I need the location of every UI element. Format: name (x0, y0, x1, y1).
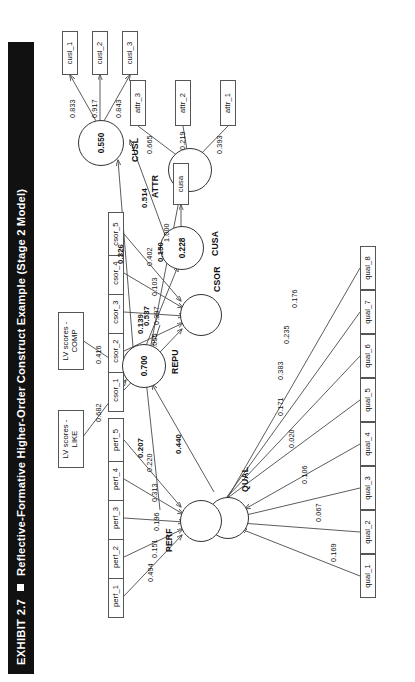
loading-cusl-1: 0.833 (68, 99, 77, 118)
construct-label-csor: CSOR (212, 266, 222, 292)
indicator-label: cusl_1 (66, 42, 75, 65)
indicator-label: qual_3 (364, 476, 373, 499)
indicator-label: perf_1 (112, 585, 121, 607)
indicator-attr-2: attr_2 (175, 80, 191, 126)
indicator-cusl-3: cusl_3 (122, 31, 138, 75)
weight-attr-3: 0.665 (145, 135, 154, 154)
weight-perf-3: 0.196 (152, 512, 161, 531)
construct-label-repu: REPU (170, 349, 180, 374)
indicator-perf-2: perf_2 (108, 535, 124, 579)
indicator-label: attr_1 (224, 93, 233, 113)
construct-label-cusl: CUSL (130, 138, 140, 162)
indicator-label: cusl_3 (126, 42, 135, 65)
indicator-label: perf_5 (112, 429, 121, 451)
path-repu-cusl: 0.326 (116, 244, 125, 264)
weight-perf-1: 0.494 (146, 563, 155, 582)
weight-csor-4: 0.103 (150, 277, 159, 296)
indicator-label: qual_1 (364, 564, 373, 587)
indicator-attr-1: attr_1 (220, 80, 236, 126)
indicator-label: attr_2 (179, 93, 188, 113)
weight-lv-comp: 0.416 (94, 345, 103, 364)
indicator-perf-5: perf_5 (108, 418, 124, 462)
indicator-qual-4: qual_4 (360, 422, 376, 466)
indicator-label: qual_5 (364, 388, 373, 411)
indicator-qual-1: qual_1 (360, 554, 376, 598)
indicator-qual-3: qual_3 (360, 466, 376, 510)
indicator-qual-7: qual_7 (360, 290, 376, 334)
weight-qual-2: 0.067 (314, 503, 323, 522)
loading-cusl-2: 0.917 (90, 99, 99, 118)
exhibit-page: EXHIBIT 2.7 Reflective-Formative Higher-… (0, 0, 415, 682)
loading-cusa: 1.000 (162, 223, 171, 242)
indicator-label-line2: COMP (71, 329, 80, 352)
indicator-label: csor_5 (112, 222, 121, 245)
construct-label-attr: ATTR (150, 175, 160, 198)
indicator-label: csor_4 (112, 261, 121, 284)
indicator-qual-2: qual_2 (360, 510, 376, 554)
indicator-qual-8: qual_8 (360, 246, 376, 290)
indicator-perf-1: perf_1 (108, 574, 124, 618)
indicator-label: qual_4 (364, 432, 373, 455)
weight-perf-2: 0.151 (150, 539, 159, 558)
indicator-lv-scores-like: LV scores - LIKE (58, 410, 84, 468)
weight-perf-5: 0.220 (145, 453, 154, 472)
path-diagram: qual_1 qual_2 qual_3 qual_4 qual_5 qual_… (38, 0, 410, 660)
path-qual-repu: 0.440 (174, 434, 183, 454)
indicator-csor-3: csor_3 (108, 290, 124, 334)
construct-repu: 0.700 (122, 344, 166, 388)
weight-attr-2: 0.219 (178, 131, 187, 150)
indicator-perf-3: perf_3 (108, 496, 124, 540)
weight-csor-3: 0.397 (152, 306, 161, 325)
indicator-label: cusl_2 (96, 42, 105, 65)
weight-perf-4: 0.313 (150, 483, 159, 502)
weight-lv-like: 0.682 (94, 403, 103, 422)
indicator-cusl-1: cusl_1 (62, 31, 78, 75)
weight-qual-4: 0.020 (287, 429, 296, 448)
indicator-label: qual_6 (364, 344, 373, 367)
construct-perf (180, 500, 222, 542)
indicator-label-line2: LIKE (71, 431, 80, 448)
indicator-qual-5: qual_5 (360, 378, 376, 422)
weight-qual-5: 0.171 (276, 397, 285, 416)
indicator-label: attr_3 (134, 93, 143, 113)
construct-value: 0.228 (178, 238, 187, 259)
indicator-label: cusa (177, 176, 186, 192)
weight-csor-5: 0.402 (145, 247, 154, 266)
indicator-perf-4: perf_4 (108, 457, 124, 501)
construct-value: 0.550 (97, 133, 106, 154)
square-bullet-icon (17, 584, 24, 591)
exhibit-title-bar: EXHIBIT 2.7 Reflective-Formative Higher-… (8, 42, 34, 674)
indicator-qual-6: qual_6 (360, 334, 376, 378)
weight-qual-3: 0.106 (300, 465, 309, 484)
construct-label-qual: QUAL (240, 467, 250, 492)
indicator-csor-1: csor_1 (108, 368, 124, 412)
path-repu-cusa: 0.537 (142, 306, 151, 326)
indicator-label: csor_1 (112, 378, 121, 401)
indicator-label: perf_3 (112, 507, 121, 529)
indicator-cusl-2: cusl_2 (92, 31, 108, 75)
diagram-viewport: qual_1 qual_2 qual_3 qual_4 qual_5 qual_… (38, 0, 415, 682)
path-attr-repu: 0.150 (156, 242, 165, 262)
indicator-label: csor_3 (112, 300, 121, 323)
construct-label-cusa: CUSA (210, 231, 220, 256)
weight-qual-8: 0.176 (290, 289, 299, 308)
exhibit-number: EXHIBIT 2.7 (15, 599, 27, 665)
weight-qual-1: 0.169 (329, 543, 338, 562)
weight-qual-7: 0.235 (282, 325, 291, 344)
weight-qual-6: 0.383 (276, 361, 285, 380)
indicator-label: qual_2 (364, 520, 373, 543)
construct-value: 0.700 (140, 356, 149, 377)
construct-cusl: 0.550 (78, 120, 124, 166)
indicator-attr-3: attr_3 (130, 80, 146, 126)
loading-cusl-3: 0.843 (114, 99, 123, 118)
indicator-label: csor_2 (112, 339, 121, 362)
indicator-lv-scores-comp: LV scores - COMP (58, 312, 84, 370)
indicator-cusa: cusa (173, 163, 189, 205)
construct-csor (180, 294, 222, 336)
weight-attr-1: 0.393 (215, 135, 224, 154)
indicator-label: perf_4 (112, 468, 121, 490)
indicator-label: qual_7 (364, 300, 373, 323)
path-perf-repu: 0.207 (136, 438, 145, 458)
indicator-label: perf_2 (112, 546, 121, 568)
path-cusa-cusl: 0.514 (140, 188, 149, 208)
